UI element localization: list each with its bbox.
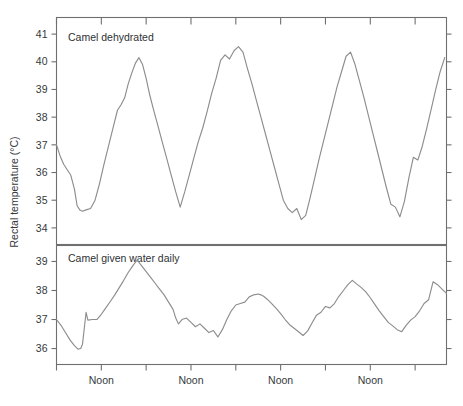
panel-top-frame <box>57 18 447 245</box>
y-tick-label: 39 <box>36 255 48 267</box>
y-tick-label: 40 <box>36 55 48 67</box>
y-tick-label: 36 <box>36 342 48 354</box>
x-tick-label-noon: Noon <box>268 374 293 386</box>
y-axis-tick-labels-top: 3435363738394041 <box>36 28 48 234</box>
y-axis-ticks-top <box>52 34 57 228</box>
right-axis-ticks-bottom <box>447 261 452 348</box>
panel-camel-dehydrated: 3435363738394041 Camel dehydrated <box>36 18 452 245</box>
camel-rectal-temperature-chart: Rectal temperature (°C) 3435363738394041… <box>0 0 463 406</box>
panel-title-watered: Camel given water daily <box>68 252 180 264</box>
data-line-watered <box>57 260 447 349</box>
panel-camel-given-water-daily: 36373839 Camel given water daily <box>36 246 452 371</box>
x-tick-label-noon: Noon <box>178 374 203 386</box>
x-tick-label-noon: Noon <box>358 374 383 386</box>
y-axis-tick-labels-bottom: 36373839 <box>36 255 48 354</box>
y-axis-title: Rectal temperature (°C) <box>8 137 20 248</box>
data-line-dehydrated <box>57 47 445 220</box>
x-axis-ticks-bottom <box>57 365 416 371</box>
y-tick-label: 38 <box>36 284 48 296</box>
right-axis-ticks-top <box>447 34 452 228</box>
y-tick-label: 35 <box>36 194 48 206</box>
x-tick-label-noon: Noon <box>89 374 114 386</box>
y-tick-label: 39 <box>36 83 48 95</box>
y-tick-label: 38 <box>36 111 48 123</box>
y-tick-label: 37 <box>36 313 48 325</box>
y-tick-label: 37 <box>36 139 48 151</box>
y-axis-ticks-bottom <box>52 261 57 348</box>
panel-title-dehydrated: Camel dehydrated <box>68 31 154 43</box>
y-tick-label: 34 <box>36 222 48 234</box>
x-axis-ticks-top <box>57 18 416 25</box>
x-axis-tick-labels: NoonNoonNoonNoon <box>89 374 383 386</box>
y-tick-label: 41 <box>36 28 48 40</box>
chart-figure: Rectal temperature (°C) 3435363738394041… <box>0 0 463 406</box>
y-tick-label: 36 <box>36 166 48 178</box>
